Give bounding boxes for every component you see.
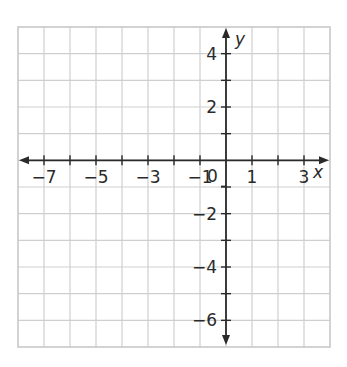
y-axis-up-arrow-icon bbox=[222, 28, 230, 38]
x-tick-label: −3 bbox=[135, 167, 160, 187]
y-tick-label: −6 bbox=[192, 310, 217, 330]
x-tick-label: 3 bbox=[299, 167, 310, 187]
coordinate-grid: −7−5−3−11342−2−4−6 x y 0 bbox=[0, 0, 347, 367]
y-axis-down-arrow-icon bbox=[222, 335, 230, 345]
x-axis-left-arrow-icon bbox=[19, 156, 29, 164]
x-tick-label: −7 bbox=[31, 167, 56, 187]
y-tick-label: −4 bbox=[192, 257, 217, 277]
grid-lines bbox=[18, 27, 330, 347]
x-axis-label: x bbox=[312, 162, 324, 182]
y-axis-label: y bbox=[234, 29, 246, 49]
x-tick-label: 1 bbox=[247, 167, 258, 187]
y-tick-label: 4 bbox=[206, 44, 217, 64]
x-tick-label: −5 bbox=[83, 167, 108, 187]
origin-label: 0 bbox=[207, 166, 218, 186]
y-tick-label: −2 bbox=[192, 204, 217, 224]
y-tick-label: 2 bbox=[206, 97, 217, 117]
